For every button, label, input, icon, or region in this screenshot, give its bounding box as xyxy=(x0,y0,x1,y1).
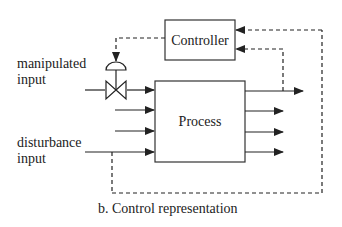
process-inputs xyxy=(85,110,154,152)
controller-output-signal xyxy=(116,38,165,61)
manipulated-input-label: manipulated input xyxy=(17,56,86,88)
valve-actuator-icon xyxy=(106,62,126,70)
control-diagram: Controller Process xyxy=(0,0,342,227)
figure-caption: b. Control representation xyxy=(98,201,238,217)
control-valve-icon xyxy=(106,62,126,99)
process-label: Process xyxy=(179,114,222,129)
process-outputs xyxy=(245,91,303,152)
manipulated-input-line1: manipulated xyxy=(17,56,86,72)
disturbance-input-label: disturbance input xyxy=(17,135,82,167)
disturbance-input-line1: disturbance xyxy=(17,135,82,151)
disturbance-input-line2: input xyxy=(17,151,82,167)
controller-block: Controller xyxy=(165,20,235,60)
manipulated-input-line2: input xyxy=(17,72,86,88)
process-block: Process xyxy=(155,81,245,162)
controller-label: Controller xyxy=(171,33,229,48)
